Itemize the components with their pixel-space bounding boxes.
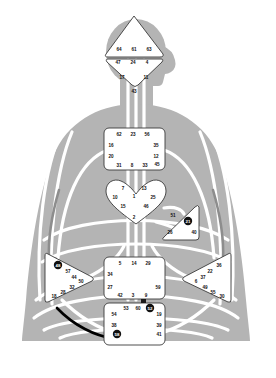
- gate-11[interactable]: 11: [144, 75, 149, 80]
- gate-16[interactable]: 16: [108, 143, 114, 148]
- gate-53-label: 53: [123, 306, 129, 311]
- gate-22-label: 22: [207, 269, 213, 274]
- gate-30-label: 30: [219, 294, 225, 299]
- gate-49-label: 49: [202, 285, 208, 290]
- gate-57[interactable]: 57: [65, 269, 71, 274]
- gate-11-label: 11: [144, 75, 149, 80]
- gate-14[interactable]: 14: [131, 261, 137, 266]
- gate-43-label: 43: [131, 89, 137, 94]
- gate-10[interactable]: 10: [112, 195, 118, 200]
- gate-29[interactable]: 29: [145, 261, 151, 266]
- gate-53[interactable]: 53: [123, 306, 129, 311]
- gate-33-label: 33: [142, 163, 148, 168]
- gate-22[interactable]: 22: [207, 269, 213, 274]
- gate-13[interactable]: 13: [141, 186, 147, 191]
- gate-13-label: 13: [141, 186, 147, 191]
- gate-38[interactable]: 38: [111, 323, 117, 328]
- gate-41-label: 41: [156, 332, 162, 337]
- gate-54[interactable]: 54: [111, 312, 117, 317]
- gate-21[interactable]: 21: [184, 217, 192, 225]
- gate-43[interactable]: 43: [131, 89, 137, 94]
- gate-59-label: 59: [155, 285, 161, 290]
- gate-5-label: 5: [119, 261, 122, 266]
- gate-63-label: 63: [146, 47, 152, 52]
- gate-48[interactable]: 48: [54, 261, 62, 269]
- gate-63[interactable]: 63: [146, 47, 152, 52]
- gate-19[interactable]: 19: [156, 312, 162, 317]
- gate-16-label: 16: [108, 143, 114, 148]
- gate-59[interactable]: 59: [155, 285, 161, 290]
- gate-38-label: 38: [111, 323, 117, 328]
- gate-36[interactable]: 36: [216, 263, 222, 268]
- gate-64[interactable]: 64: [116, 47, 122, 52]
- gate-25[interactable]: 25: [150, 195, 156, 200]
- bodygraph-canvas: 6461634724417114362235616352012318334571…: [0, 0, 276, 378]
- gate-8[interactable]: 8: [131, 163, 134, 168]
- gate-41[interactable]: 41: [156, 332, 162, 337]
- gate-33[interactable]: 33: [142, 163, 148, 168]
- gate-55[interactable]: 55: [210, 290, 216, 295]
- gate-20[interactable]: 20: [108, 154, 114, 159]
- gate-12[interactable]: 12: [153, 154, 159, 159]
- gate-62-label: 62: [116, 132, 122, 137]
- gate-51[interactable]: 51: [170, 213, 176, 218]
- gate-62[interactable]: 62: [116, 132, 122, 137]
- gate-31[interactable]: 31: [116, 163, 122, 168]
- gate-64-label: 64: [116, 47, 122, 52]
- gate-34[interactable]: 34: [107, 272, 113, 277]
- gate-52[interactable]: 52: [146, 304, 154, 312]
- gate-35-label: 35: [153, 143, 159, 148]
- gate-58[interactable]: 58: [113, 330, 121, 338]
- gate-45[interactable]: 45: [154, 162, 160, 167]
- gate-20-label: 20: [108, 154, 114, 159]
- gate-46[interactable]: 46: [143, 204, 149, 209]
- gate-45-label: 45: [154, 162, 160, 167]
- gate-1-label: 1: [133, 194, 136, 199]
- gate-44[interactable]: 44: [71, 275, 77, 280]
- gate-47[interactable]: 47: [115, 60, 121, 65]
- gate-51-label: 51: [170, 213, 176, 218]
- gate-3[interactable]: 3: [132, 293, 135, 298]
- gate-7[interactable]: 7: [122, 186, 125, 191]
- gate-32[interactable]: 32: [69, 285, 75, 290]
- gate-60[interactable]: 60: [135, 306, 141, 311]
- gate-50[interactable]: 50: [78, 279, 84, 284]
- gate-7-label: 7: [122, 186, 125, 191]
- gate-8-label: 8: [131, 163, 134, 168]
- gate-48-label: 48: [56, 263, 61, 268]
- gate-26[interactable]: 26: [167, 230, 173, 235]
- gate-1[interactable]: 1: [133, 194, 136, 199]
- gate-35[interactable]: 35: [153, 143, 159, 148]
- gate-18[interactable]: 18: [51, 294, 57, 299]
- gate-24[interactable]: 24: [130, 60, 136, 65]
- gate-2[interactable]: 2: [133, 215, 136, 220]
- gate-15[interactable]: 15: [120, 204, 126, 209]
- bodygraph-svg: 6461634724417114362235616352012318334571…: [0, 0, 276, 378]
- gate-42[interactable]: 42: [117, 293, 123, 298]
- gate-5[interactable]: 5: [119, 261, 122, 266]
- gate-50-label: 50: [78, 279, 84, 284]
- gate-37[interactable]: 37: [200, 275, 206, 280]
- gate-24-label: 24: [130, 60, 136, 65]
- gate-56[interactable]: 56: [144, 132, 150, 137]
- gate-28-label: 28: [60, 290, 66, 295]
- gate-17[interactable]: 17: [119, 75, 125, 80]
- gate-57-label: 57: [65, 269, 71, 274]
- gate-9[interactable]: 9: [145, 293, 148, 298]
- gate-61[interactable]: 61: [131, 47, 137, 52]
- gate-10-label: 10: [112, 195, 118, 200]
- gate-40[interactable]: 40: [191, 230, 197, 235]
- gate-39[interactable]: 39: [156, 323, 162, 328]
- gate-49[interactable]: 49: [202, 285, 208, 290]
- gate-6[interactable]: 6: [195, 279, 198, 284]
- gate-3-label: 3: [132, 293, 135, 298]
- gate-23[interactable]: 23: [130, 132, 136, 137]
- gate-2-label: 2: [133, 215, 136, 220]
- gate-28[interactable]: 28: [60, 290, 66, 295]
- gate-4[interactable]: 4: [146, 60, 149, 65]
- gate-47-label: 47: [115, 60, 121, 65]
- gate-27[interactable]: 27: [107, 285, 113, 290]
- gate-54-label: 54: [111, 312, 117, 317]
- gate-12-label: 12: [153, 154, 159, 159]
- gate-30[interactable]: 30: [219, 294, 225, 299]
